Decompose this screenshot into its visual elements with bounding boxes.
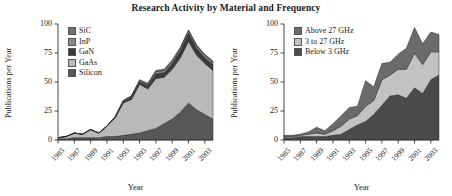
x-axis-label-right: Year (284, 182, 439, 192)
legend-swatch-icon (294, 38, 302, 46)
legend-item: GaN (68, 47, 102, 57)
y-tick-label: 25 (246, 106, 278, 115)
legend-item: Below 3 GHz (294, 47, 353, 57)
legend-materials: SiCInPGaNGaAsSilicon (68, 26, 102, 79)
legend-label: GaN (79, 47, 94, 57)
legend-swatch-icon (68, 38, 76, 46)
legend-item: GaAs (68, 58, 102, 68)
legend-swatch-icon (68, 48, 76, 56)
legend-swatch-icon (68, 59, 76, 67)
legend-swatch-icon (68, 69, 76, 77)
legend-item: InP (68, 37, 102, 47)
legend-label: 3 to 27 GHz (305, 37, 344, 47)
y-tick-label: 50 (246, 77, 278, 86)
y-tick-label: 100 (20, 19, 52, 28)
y-axis-label-left: Publications per Year (4, 28, 13, 138)
legend-swatch-icon (294, 27, 302, 35)
x-axis-label-left: Year (58, 182, 213, 192)
legend-label: GaAs (79, 58, 97, 68)
legend-label: Below 3 GHz (305, 47, 349, 57)
legend-item: Silicon (68, 68, 102, 78)
page-title: Research Activity by Material and Freque… (0, 3, 452, 13)
legend-frequency: Above 27 GHz3 to 27 GHzBelow 3 GHz (294, 26, 353, 58)
legend-item: SiC (68, 26, 102, 36)
y-tick-label: 75 (246, 48, 278, 57)
y-tick-label: 75 (20, 48, 52, 57)
legend-item: 3 to 27 GHz (294, 37, 353, 47)
y-axis-label-right: Publications per Year (230, 28, 239, 138)
legend-label: Silicon (79, 68, 102, 78)
chart-panel-frequency: Publications per Year Year Above 27 GHz3… (226, 16, 452, 196)
y-tick-label: 50 (20, 77, 52, 86)
y-tick-label: 100 (246, 19, 278, 28)
legend-swatch-icon (68, 27, 76, 35)
legend-swatch-icon (294, 48, 302, 56)
y-tick-label: 0 (246, 135, 278, 144)
legend-label: InP (79, 37, 90, 47)
legend-label: Above 27 GHz (305, 26, 353, 36)
legend-label: SiC (79, 26, 91, 36)
figure-container: Research Activity by Material and Freque… (0, 0, 452, 196)
chart-panel-materials: Publications per Year Year SiCInPGaNGaAs… (0, 16, 226, 196)
y-tick-label: 25 (20, 106, 52, 115)
legend-item: Above 27 GHz (294, 26, 353, 36)
y-tick-label: 0 (20, 135, 52, 144)
